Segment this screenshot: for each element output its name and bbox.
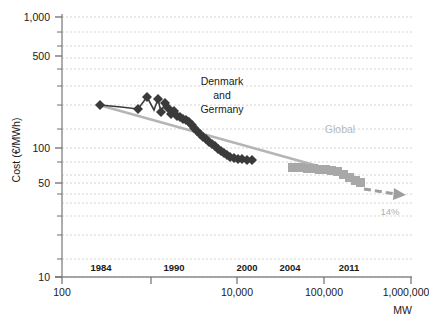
annotation-global: Global (325, 123, 355, 135)
y-tick-label-1000: 1,000 (24, 11, 50, 23)
y-axis-title: Cost (€/MWh) (10, 118, 22, 183)
x-tick-label-100000: 100,000 (305, 286, 343, 298)
year-label-2004: 2004 (279, 262, 301, 273)
y-axis-ticks (55, 17, 62, 277)
annotation-denmark-line1: Denmark (201, 75, 244, 87)
year-label-1990: 1990 (163, 262, 184, 273)
x-axis-ticks (62, 277, 411, 284)
annotation-denmark-line2: and (213, 89, 231, 101)
chart-container: 1,000 500 100 50 10 Cost (€/MWh) 100 10,… (0, 0, 429, 322)
annotation-denmark-line3: Germany (200, 103, 244, 115)
cost-vs-capacity-chart: 1,000 500 100 50 10 Cost (€/MWh) 100 10,… (0, 0, 429, 322)
y-tick-label-50: 50 (38, 177, 50, 189)
x-tick-label-10000: 10,000 (221, 286, 253, 298)
y-tick-label-10: 10 (38, 271, 50, 283)
annotation-rate-14-percent: 14% (380, 206, 400, 217)
year-label-2000: 2000 (236, 262, 257, 273)
y-tick-label-100: 100 (32, 142, 50, 154)
y-tick-label-500: 500 (32, 50, 50, 62)
x-tick-label-1000000: 1,000,000 (383, 286, 429, 298)
x-axis-title: MW (393, 304, 412, 316)
axis-lines (55, 14, 412, 277)
year-label-2011: 2011 (339, 262, 360, 273)
gridlines (62, 17, 412, 277)
x-tick-label-100: 100 (53, 286, 71, 298)
y-axis-minor-ticks (57, 32, 62, 259)
year-label-1984: 1984 (90, 262, 112, 273)
